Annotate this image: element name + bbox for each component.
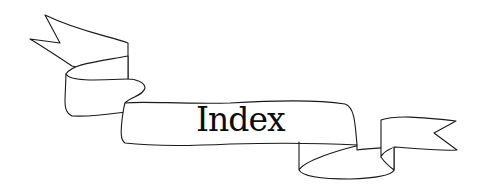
- ribbon-banner: Index: [0, 0, 489, 195]
- banner-title: Index: [196, 100, 280, 140]
- ribbon-illustration: [0, 0, 489, 195]
